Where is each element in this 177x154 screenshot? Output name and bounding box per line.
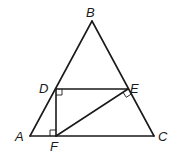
right-angle-mark-d xyxy=(56,89,62,95)
label-e: E xyxy=(130,81,139,96)
segment-fe xyxy=(56,89,128,136)
label-f: F xyxy=(50,139,59,154)
segment-bc xyxy=(92,21,154,136)
label-a: A xyxy=(14,129,24,144)
geometry-diagram: B D E A F C xyxy=(0,0,177,154)
label-b: B xyxy=(86,5,95,20)
right-angle-mark-f xyxy=(50,130,56,136)
label-c: C xyxy=(158,129,168,144)
label-d: D xyxy=(39,81,48,96)
